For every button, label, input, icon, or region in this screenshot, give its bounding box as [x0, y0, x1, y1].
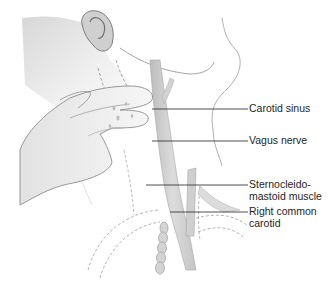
label-right-common-carotid-line1: Right common — [249, 206, 317, 218]
carotid-artery — [150, 60, 196, 270]
label-vagus-nerve: Vagus nerve — [249, 135, 307, 147]
label-sternocleidomastoid-line1: Sternocleido- — [249, 179, 311, 191]
hand-icon — [20, 86, 153, 205]
throat-outline — [212, 18, 240, 166]
anatomy-illustration: Carotid sinus Vagus nerve Sternocleido- … — [0, 0, 335, 285]
rib-dashed-left — [100, 222, 160, 278]
label-sternocleidomastoid-line2: mastoid muscle — [249, 191, 322, 203]
scm-muscle — [198, 186, 240, 212]
right-common-carotid-vessel — [186, 168, 196, 236]
jaw-outline — [120, 48, 214, 74]
clavicle-dashed-right — [196, 215, 248, 226]
clavicle-dashed-left — [88, 210, 158, 270]
label-right-common-carotid-line2: carotid — [249, 218, 281, 230]
neck-dashed-line — [124, 150, 134, 215]
trachea-icon — [156, 222, 169, 274]
rib-dashed-right — [198, 228, 244, 238]
label-carotid-sinus: Carotid sinus — [249, 103, 310, 115]
